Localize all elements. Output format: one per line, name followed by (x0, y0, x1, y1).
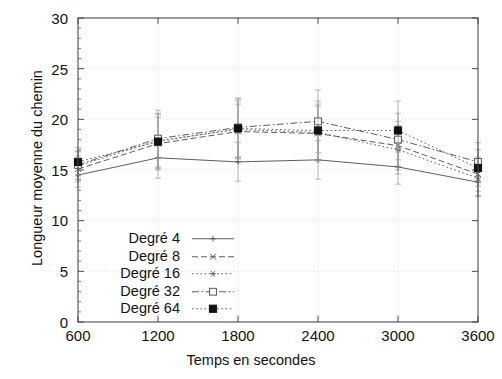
y-tick-30: 30 (34, 10, 68, 27)
x-axis-label: Temps en secondes (0, 352, 502, 368)
x-tick-600: 600 (48, 327, 108, 344)
x-tick-1200: 1200 (128, 327, 188, 344)
legend-sample-degre-8 (190, 248, 236, 266)
x-tick-1800: 1800 (208, 327, 268, 344)
data-series-layer (74, 90, 481, 196)
y-tick-10: 10 (34, 212, 68, 229)
legend-item-degre-64: Degré 64 (86, 300, 236, 318)
legend-item-degre-16: Degré 16 (86, 265, 236, 283)
legend-item-degre-32: Degré 32 (86, 283, 236, 301)
y-tick-15: 15 (34, 162, 68, 179)
series-degr-32 (75, 90, 482, 181)
series-degr-64 (74, 99, 481, 186)
legend-sample-degre-64 (190, 300, 236, 318)
y-tick-5: 5 (34, 263, 68, 280)
x-tick-3600: 3600 (448, 327, 502, 344)
legend-label-degre-16: Degré 16 (86, 265, 190, 283)
chart-plot-area (0, 0, 502, 379)
series-degr-16 (75, 101, 481, 195)
chart-figure: Longueur moyenne du chemin Temps en seco… (0, 0, 502, 379)
x-tick-2400: 2400 (288, 327, 348, 344)
y-tick-20: 20 (34, 111, 68, 128)
legend-label-degre-4: Degré 4 (86, 230, 190, 248)
chart-legend: Degré 4 Degré 8 Degré 16 Degré 32 Degré … (86, 230, 236, 318)
legend-sample-degre-32 (190, 283, 236, 301)
legend-label-degre-8: Degré 8 (86, 248, 190, 266)
legend-sample-degre-16 (190, 265, 236, 283)
legend-label-degre-64: Degré 64 (86, 300, 190, 318)
legend-sample-degre-4 (190, 230, 236, 248)
series-degr-4 (75, 138, 481, 197)
y-tick-25: 25 (34, 61, 68, 78)
legend-label-degre-32: Degré 32 (86, 283, 190, 301)
legend-item-degre-4: Degré 4 (86, 230, 236, 248)
x-tick-3000: 3000 (368, 327, 428, 344)
legend-item-degre-8: Degré 8 (86, 248, 236, 266)
